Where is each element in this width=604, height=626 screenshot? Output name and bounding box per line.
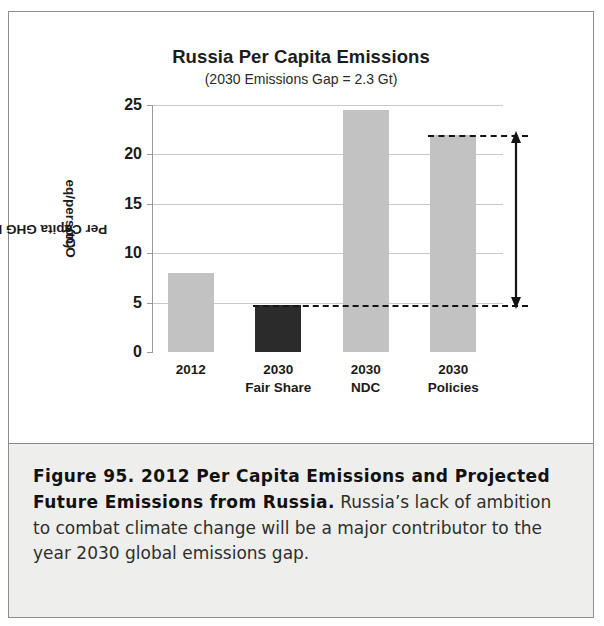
x-tick-label-line1: 2012 <box>176 361 206 379</box>
bar <box>168 273 214 352</box>
chart-subtitle: (2030 Emissions Gap = 2.3 Gt) <box>9 71 593 87</box>
y-tick-mark <box>147 204 153 205</box>
x-tick-label: 2030Fair Share <box>245 361 311 397</box>
x-tick-label: 2030NDC <box>351 361 381 397</box>
plot-area: 0510152025 20122030Fair Share2030NDC2030… <box>153 105 503 352</box>
y-tick-mark <box>147 154 153 155</box>
x-tick-label-line2: Policies <box>428 379 479 397</box>
x-tick-label-line2: NDC <box>351 379 381 397</box>
bar <box>255 305 301 352</box>
gap-lower-dashed-line <box>253 305 528 307</box>
gridline <box>153 105 503 106</box>
y-axis-title: Per Capita GHG Emissions (tCO2eq/person) <box>41 105 63 352</box>
figure-frame: Russia Per Capita Emissions (2030 Emissi… <box>8 11 594 618</box>
chart-title: Russia Per Capita Emissions <box>9 46 593 68</box>
x-tick-label-line1: 2030 <box>245 361 311 379</box>
y-tick-label: 0 <box>133 343 142 361</box>
y-tick-label: 15 <box>124 195 142 213</box>
y-tick-label: 25 <box>124 96 142 114</box>
x-tick-label-line2: Fair Share <box>245 379 311 397</box>
y-tick-label: 5 <box>133 294 142 312</box>
y-tick-mark <box>147 253 153 254</box>
y-tick-mark <box>147 303 153 304</box>
bar <box>430 135 476 352</box>
x-tick-label: 2012 <box>176 361 206 379</box>
x-tick-label: 2030Policies <box>428 361 479 397</box>
bar <box>343 110 389 352</box>
chart-panel: Russia Per Capita Emissions (2030 Emissi… <box>9 12 593 444</box>
figure-caption: Figure 95. 2012 Per Capita Emissions and… <box>33 464 569 567</box>
y-tick-mark <box>147 105 153 106</box>
y-tick-label: 20 <box>124 145 142 163</box>
x-tick-label-line1: 2030 <box>428 361 479 379</box>
caption-area: Figure 95. 2012 Per Capita Emissions and… <box>9 444 593 617</box>
gap-double-arrow-icon <box>504 130 528 310</box>
y-tick-mark <box>147 352 153 353</box>
y-tick-label: 10 <box>124 244 142 262</box>
y-axis-line <box>152 105 153 352</box>
x-tick-label-line1: 2030 <box>351 361 381 379</box>
